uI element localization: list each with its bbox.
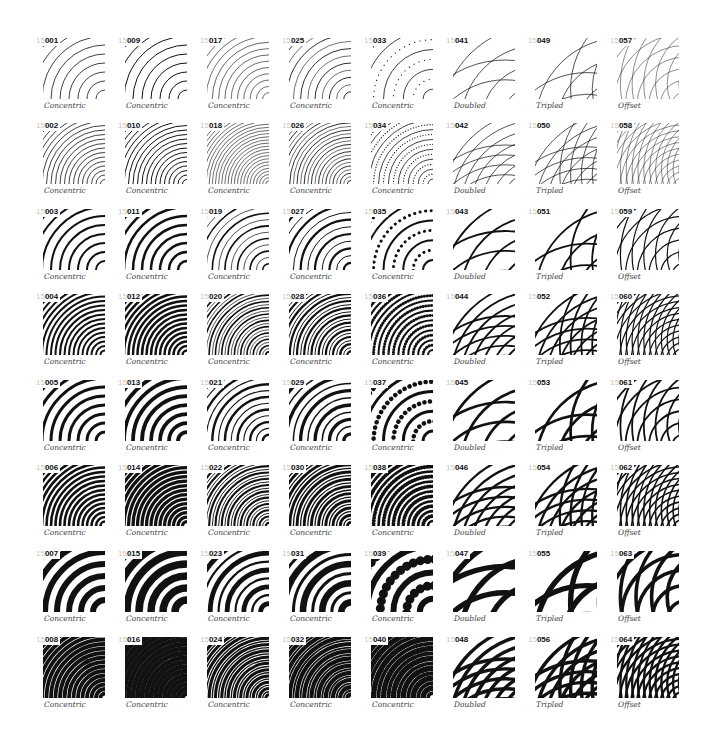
pattern-tile: 15013Concentric [118,380,196,464]
number-id: 051 [537,207,550,216]
number-id: 008 [45,635,58,644]
number-prefix: 15 [200,292,209,301]
pattern-tile: 15053Tripled [528,380,606,464]
pattern-tile: 15023Concentric [200,551,278,635]
pattern-number: 15043 [446,207,470,217]
pattern-tile: 15033Concentric [364,38,442,122]
number-id: 039 [373,549,386,558]
pattern-tile: 15027Concentric [282,209,360,293]
pattern-tile: 15034Concentric [364,123,442,207]
pattern-tile: 15011Concentric [118,209,196,293]
pattern-caption: Concentric [372,272,414,281]
pattern-caption: Concentric [372,357,414,366]
number-id: 028 [291,292,304,301]
pattern-swatch [453,123,515,184]
pattern-swatch [289,551,351,612]
pattern-caption: Tripled [536,614,563,623]
pattern-swatch [535,123,597,184]
pattern-swatch [453,637,515,698]
number-id: 036 [373,292,386,301]
number-prefix: 15 [118,378,127,387]
pattern-caption: Concentric [372,443,414,452]
pattern-tile: 15056Tripled [528,637,606,721]
pattern-caption: Concentric [208,528,250,537]
pattern-number: 15022 [200,463,224,473]
pattern-caption: Concentric [208,272,250,281]
pattern-swatch [453,465,515,526]
pattern-swatch [371,123,433,184]
number-id: 010 [127,121,140,130]
pattern-swatch [125,38,187,99]
number-prefix: 15 [364,378,373,387]
number-prefix: 15 [282,378,291,387]
pattern-swatch [617,123,679,184]
pattern-swatch [453,38,515,99]
pattern-swatch [535,294,597,355]
number-prefix: 15 [364,292,373,301]
pattern-number: 15004 [36,292,60,302]
pattern-number: 15020 [200,292,224,302]
pattern-caption: Concentric [44,614,86,623]
number-prefix: 15 [118,121,127,130]
number-prefix: 15 [446,635,455,644]
pattern-caption: Doubled [454,700,486,709]
pattern-caption: Concentric [126,528,168,537]
pattern-swatch [453,380,515,441]
pattern-swatch [43,465,105,526]
number-prefix: 15 [36,207,45,216]
number-id: 040 [373,635,386,644]
pattern-tile: 15041Doubled [446,38,524,122]
pattern-swatch [617,465,679,526]
pattern-number: 15018 [200,121,224,131]
pattern-tile: 15044Doubled [446,294,524,378]
number-id: 033 [373,36,386,45]
pattern-tile: 15058Offset [610,123,688,207]
pattern-number: 15061 [610,378,634,388]
pattern-number: 15025 [282,36,306,46]
pattern-swatch [617,38,679,99]
pattern-tile: 15006Concentric [36,465,114,549]
pattern-tile: 15062Offset [610,465,688,549]
number-id: 043 [455,207,468,216]
number-prefix: 15 [610,463,619,472]
pattern-tile: 15051Tripled [528,209,606,293]
pattern-caption: Concentric [290,186,332,195]
pattern-caption: Concentric [372,186,414,195]
pattern-caption: Doubled [454,101,486,110]
pattern-tile: 15061Offset [610,380,688,464]
number-id: 046 [455,463,468,472]
pattern-caption: Concentric [290,272,332,281]
pattern-swatch [125,551,187,612]
number-id: 031 [291,549,304,558]
number-prefix: 15 [118,463,127,472]
pattern-number: 15047 [446,549,470,559]
pattern-tile: 15045Doubled [446,380,524,464]
pattern-swatch [207,209,269,270]
number-prefix: 15 [36,549,45,558]
pattern-swatch [43,209,105,270]
pattern-swatch [617,209,679,270]
pattern-swatch [617,551,679,612]
pattern-tile: 15043Doubled [446,209,524,293]
pattern-tile: 15012Concentric [118,294,196,378]
number-id: 044 [455,292,468,301]
pattern-swatch [207,465,269,526]
pattern-swatch [535,209,597,270]
pattern-caption: Concentric [208,614,250,623]
number-id: 035 [373,207,386,216]
pattern-swatch [43,380,105,441]
pattern-caption: Concentric [290,700,332,709]
pattern-caption: Tripled [536,186,563,195]
number-id: 014 [127,463,140,472]
number-prefix: 15 [610,635,619,644]
pattern-swatch [371,294,433,355]
number-id: 045 [455,378,468,387]
pattern-number: 15024 [200,635,224,645]
pattern-tile: 15059Offset [610,209,688,293]
pattern-caption: Tripled [536,443,563,452]
pattern-caption: Concentric [126,700,168,709]
pattern-number: 15057 [610,36,634,46]
pattern-caption: Offset [618,101,641,110]
number-id: 054 [537,463,550,472]
number-id: 012 [127,292,140,301]
